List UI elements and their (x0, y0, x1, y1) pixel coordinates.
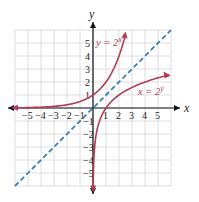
y-tick-label: −4 (83, 155, 94, 166)
x-tick-label: −5 (22, 110, 33, 121)
y-tick-label: 2 (85, 77, 90, 88)
x-tick-label: −2 (61, 110, 72, 121)
y-tick-label: −2 (83, 129, 94, 140)
graph: xy −5−4−3−2−11234554321−1−2−3−4−5 y = 2x… (0, 0, 199, 202)
y-tick-label: 3 (85, 64, 90, 75)
x-tick-label: 4 (142, 110, 147, 121)
y-tick-label: −3 (83, 142, 94, 153)
y-axis-label: y (88, 7, 95, 21)
y-tick-label: 4 (85, 51, 90, 62)
x-tick-label: −4 (35, 110, 46, 121)
x-tick-label: 3 (129, 110, 134, 121)
y-tick-label: 5 (85, 38, 90, 49)
x-axis-label: x (183, 101, 190, 115)
x-tick-label: 5 (155, 110, 160, 121)
x-tick-label: 2 (116, 110, 121, 121)
y-tick-label: −5 (83, 168, 94, 179)
label-x-equals-2-to-y: x = 2y (137, 84, 164, 97)
x-tick-label: −3 (48, 110, 59, 121)
label-y-equals-2-to-x: y = 2x (95, 35, 122, 48)
